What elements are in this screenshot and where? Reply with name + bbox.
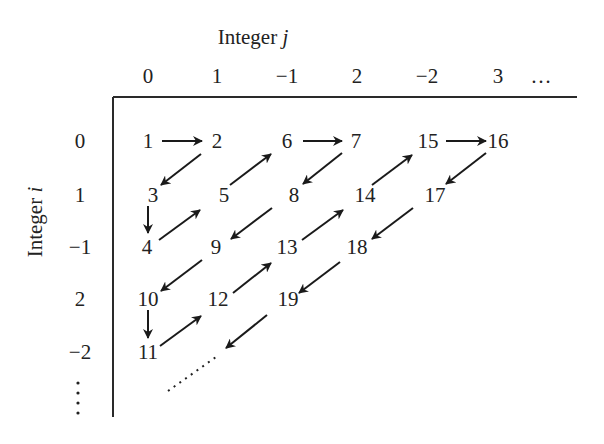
arrow-9-to-10: [161, 260, 202, 291]
arrow-17-to-18: [372, 208, 413, 239]
row-axis-title: Integer i: [23, 187, 47, 258]
row-axis-title-prefix: Integer: [23, 193, 47, 258]
arrow-2-to-3: [161, 154, 201, 185]
arrow-14-to-15: [372, 155, 412, 185]
diagram-canvas: Integer j Integer i 01−12−23… 01−12−2 12…: [0, 0, 604, 444]
cell-number-4: 4: [142, 235, 153, 259]
column-label: 2: [352, 64, 363, 88]
column-label: …: [531, 64, 552, 88]
ellipsis-dot: [76, 381, 79, 384]
row-label: 2: [75, 287, 86, 311]
cell-number-2: 2: [212, 129, 223, 153]
column-label: 0: [143, 64, 154, 88]
arrow-11-to-12: [160, 316, 201, 346]
cell-number-10: 10: [138, 287, 159, 311]
enumeration-arrows: [148, 141, 486, 348]
column-label: 1: [212, 64, 223, 88]
cell-number-5: 5: [219, 183, 230, 207]
cell-number-13: 13: [277, 235, 298, 259]
cell-number-18: 18: [347, 235, 368, 259]
column-axis-title: Integer j: [218, 25, 289, 49]
arrow-7-to-8: [303, 153, 342, 184]
cell-number-14: 14: [355, 183, 377, 207]
row-axis-variable: i: [23, 187, 47, 193]
row-label: −2: [69, 340, 91, 364]
cell-number-16: 16: [488, 129, 509, 153]
column-labels: 01−12−23…: [143, 64, 552, 88]
cell-number-12: 12: [208, 287, 229, 311]
diagonal-enumeration-diagram: Integer j Integer i 01−12−23… 01−12−2 12…: [0, 0, 604, 444]
arrow-12-to-13: [233, 263, 271, 293]
arrow-16-to-17: [446, 153, 486, 184]
column-axis-title-prefix: Integer: [218, 25, 283, 49]
ellipsis-dot: [76, 401, 79, 404]
column-label: −2: [416, 64, 438, 88]
ellipsis-dot: [76, 411, 79, 414]
continuation-dotted-line: [168, 357, 216, 391]
row-ellipsis: [76, 381, 79, 414]
cell-number-11: 11: [138, 340, 158, 364]
cell-number-17: 17: [425, 183, 446, 207]
arrow-4-to-5: [159, 210, 200, 240]
cell-number-1: 1: [143, 129, 154, 153]
arrow-13-to-14: [302, 210, 343, 240]
column-label: 3: [493, 64, 504, 88]
row-label: 1: [75, 183, 86, 207]
cell-number-7: 7: [351, 129, 362, 153]
cell-number-6: 6: [282, 129, 293, 153]
arrow-8-to-9: [231, 208, 272, 239]
arrow-5-to-6: [230, 154, 271, 185]
column-label: −1: [276, 64, 298, 88]
enumeration-cells: 12345678910111213141516171819: [138, 129, 509, 364]
arrow-19-to-next: [226, 315, 267, 348]
cell-number-15: 15: [418, 129, 439, 153]
row-label: 0: [75, 129, 86, 153]
cell-number-9: 9: [211, 235, 222, 259]
row-labels: 01−12−2: [69, 129, 91, 364]
row-label: −1: [69, 235, 91, 259]
cell-number-19: 19: [278, 287, 299, 311]
ellipsis-dot: [76, 391, 79, 394]
cell-number-3: 3: [148, 183, 159, 207]
arrow-18-to-19: [299, 262, 340, 293]
cell-number-8: 8: [289, 183, 300, 207]
